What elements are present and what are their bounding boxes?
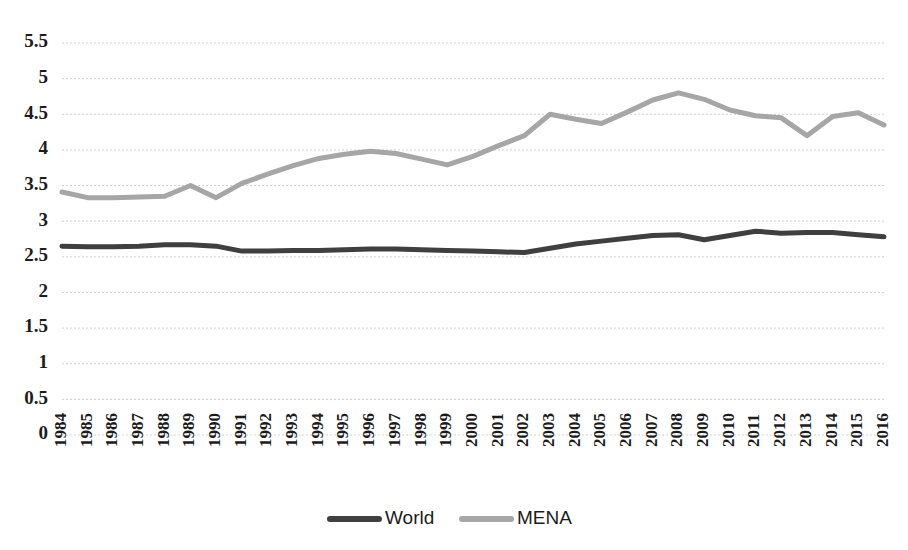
x-tick-label: 1998 [411, 413, 430, 447]
legend-label-world[interactable]: World [385, 507, 434, 528]
x-tick-label: 1997 [385, 413, 404, 448]
x-tick-label: 1999 [436, 413, 455, 447]
y-tick-label: 1.5 [24, 315, 48, 336]
x-tick-label: 1996 [359, 413, 378, 447]
y-tick-label: 5 [39, 66, 49, 87]
y-tick-label: 4 [39, 137, 49, 158]
y-tick-label: 5.5 [24, 30, 48, 51]
y-tick-label: 1 [39, 351, 49, 372]
line-chart: 00.511.522.533.544.555.5 198419851986198… [0, 0, 908, 550]
x-tick-label: 1994 [308, 413, 327, 448]
x-tick-label: 2000 [462, 413, 481, 447]
x-tick-label: 2014 [822, 413, 841, 448]
x-tick-label: 2009 [693, 413, 712, 447]
x-tick-label: 2002 [513, 413, 532, 447]
x-tick-label: 2012 [770, 413, 789, 447]
x-tick-label: 1995 [333, 413, 352, 447]
y-tick-label: 2 [39, 280, 49, 301]
chart-canvas: 00.511.522.533.544.555.5 198419851986198… [0, 0, 908, 550]
x-tick-label: 1984 [51, 413, 70, 448]
x-tick-label: 1989 [179, 413, 198, 447]
y-tick-label: 0 [39, 422, 49, 443]
x-tick-label: 2005 [590, 413, 609, 447]
x-tick-label: 1986 [102, 413, 121, 447]
x-tick-label: 2004 [565, 413, 584, 448]
y-tick-label: 4.5 [24, 102, 48, 123]
x-tick-label: 2008 [667, 413, 686, 447]
x-tick-label: 2013 [796, 413, 815, 447]
y-tick-label: 2.5 [24, 244, 48, 265]
x-tick-label: 2015 [847, 413, 866, 447]
x-tick-label: 1991 [231, 413, 250, 447]
x-tick-label: 1988 [154, 413, 173, 447]
x-tick-label: 2016 [873, 413, 892, 447]
x-tick-label: 1985 [77, 413, 96, 447]
legend-label-mena[interactable]: MENA [517, 507, 572, 528]
y-tick-label: 0.5 [24, 387, 48, 408]
x-tick-label: 2006 [616, 413, 635, 447]
y-tick-label: 3.5 [24, 173, 48, 194]
x-tick-label: 1990 [205, 413, 224, 447]
x-tick-label: 2010 [719, 413, 738, 447]
x-tick-label: 2011 [744, 414, 763, 447]
x-tick-label: 1992 [256, 413, 275, 447]
x-tick-label: 1987 [128, 413, 147, 448]
x-tick-label: 2001 [488, 413, 507, 447]
x-tick-label: 2007 [642, 413, 661, 448]
x-tick-label: 2003 [539, 413, 558, 447]
y-tick-label: 3 [39, 209, 49, 230]
x-tick-label: 1993 [282, 413, 301, 447]
chart-background [0, 0, 908, 550]
